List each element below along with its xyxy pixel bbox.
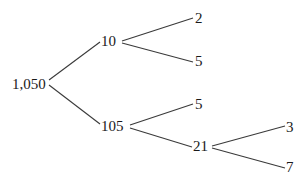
node-root-1050: 1,050 (12, 76, 46, 92)
edge-10-2 (122, 18, 193, 41)
node-2: 2 (195, 10, 203, 26)
edge-21-3 (212, 126, 285, 146)
edge-1050-105 (49, 85, 100, 124)
node-5-lower: 5 (195, 96, 203, 112)
node-10: 10 (101, 33, 116, 49)
edges (49, 18, 285, 168)
edge-10-5 (122, 43, 193, 62)
node-7: 7 (286, 159, 294, 175)
edge-105-5 (130, 104, 193, 125)
node-105: 105 (101, 118, 124, 134)
edge-21-7 (212, 148, 285, 168)
node-3: 3 (286, 119, 294, 135)
factor-tree-diagram: 1,050 10 105 2 5 5 21 3 7 (0, 0, 307, 186)
node-5-upper: 5 (195, 53, 203, 69)
nodes: 1,050 10 105 2 5 5 21 3 7 (12, 10, 294, 175)
node-21: 21 (193, 138, 208, 154)
edge-105-21 (130, 128, 192, 147)
edge-1050-10 (49, 42, 100, 80)
